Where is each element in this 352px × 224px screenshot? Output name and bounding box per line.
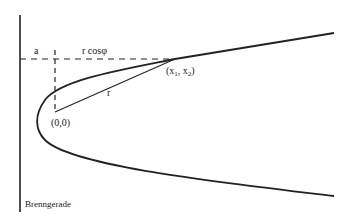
parabola-curve [37, 33, 334, 196]
label-r-cos-phi: r cosφ [82, 46, 107, 56]
label-directrix: Brenngerade [25, 200, 71, 209]
point-close: ) [191, 65, 194, 76]
parabola-diagram [0, 0, 352, 224]
label-a: a [34, 46, 38, 56]
point-mid: , x [178, 65, 188, 76]
label-origin: (0,0) [51, 118, 70, 128]
radius-line [55, 59, 175, 112]
label-point-x1-x2: (x1, x2) [166, 66, 195, 78]
label-r: r [107, 88, 110, 98]
